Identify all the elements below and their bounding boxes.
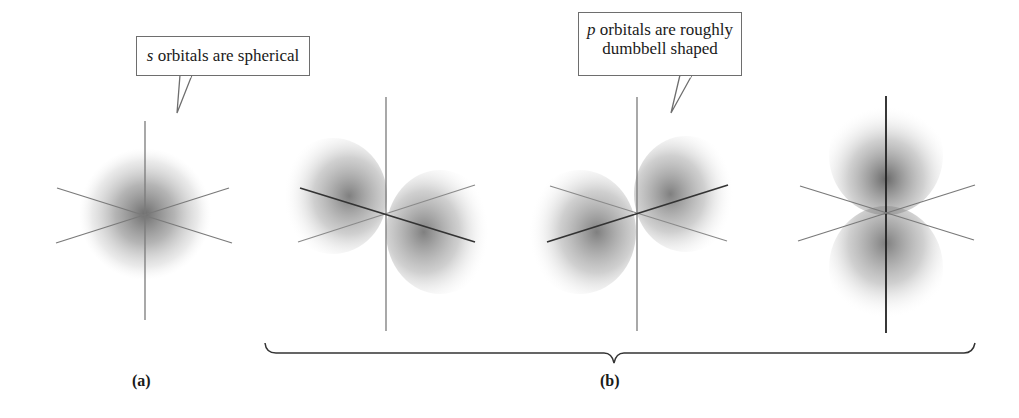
panel-label-b: (b)	[600, 372, 620, 390]
p-orbital-1	[279, 97, 494, 331]
callout-s-text: orbitals are spherical	[153, 46, 299, 65]
callout-p-text1: orbitals are roughly	[596, 20, 733, 39]
p-orbital-3	[798, 95, 975, 333]
group-brace	[265, 343, 975, 363]
callout-s-pointer	[177, 75, 192, 113]
p-orbital-2	[524, 97, 738, 331]
callout-p-pointer	[671, 75, 692, 113]
s-orbital	[56, 121, 232, 320]
callout-s-orbitals: s orbitals are spherical	[136, 36, 310, 76]
callout-p-orbitals: p orbitals are roughly dumbbell shaped	[578, 12, 742, 76]
callout-p-line2: dumbbell shaped	[579, 39, 741, 58]
panel-label-a: (a)	[132, 372, 151, 390]
callout-p-line1: p orbitals are roughly	[579, 20, 741, 39]
callout-p-italic: p	[587, 20, 596, 39]
